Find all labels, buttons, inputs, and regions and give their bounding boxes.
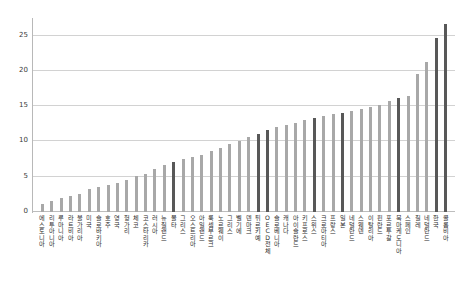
bar <box>332 114 335 212</box>
bar-series <box>33 18 455 212</box>
bar <box>322 116 325 212</box>
bar <box>407 96 410 212</box>
x-axis-label: 일본 <box>339 215 346 228</box>
y-tick-label-0: 0 <box>24 208 28 215</box>
x-axis-label: 영국 <box>114 215 121 228</box>
x-axis-label: 키프로스 <box>301 215 308 241</box>
bar <box>172 162 175 212</box>
x-axis-label: 불가리아 <box>76 215 83 241</box>
x-axis-label: 호주 <box>105 215 112 228</box>
bar <box>425 62 428 212</box>
x-axis-label: 루마니아 <box>58 215 65 241</box>
bar <box>153 169 156 212</box>
bar <box>313 118 316 212</box>
bar <box>416 74 419 212</box>
x-axis-label: 체코 <box>133 215 140 228</box>
bar <box>294 123 297 212</box>
x-axis-label: 룩셈부르크 <box>208 215 215 248</box>
x-axis-label: 프랑스 <box>330 215 337 235</box>
x-axis-label: 튀르키예 <box>255 215 262 241</box>
x-axis-label: 덴마크 <box>245 215 252 235</box>
bar <box>41 204 44 212</box>
bar <box>378 105 381 212</box>
bar <box>88 189 91 212</box>
x-axis-label: 크로아티아 <box>320 215 327 248</box>
x-axis-label: 그리스 <box>226 215 233 235</box>
y-axis-tick-labels: 0510152025 <box>0 0 33 296</box>
x-axis-label: 이탈리아 <box>367 215 374 241</box>
x-axis-label: 아일랜드 <box>198 215 205 241</box>
x-axis-label: 헝가리 <box>123 215 130 235</box>
x-axis-label: 몰타 <box>170 215 177 228</box>
x-axis-label: 칠레 <box>414 215 421 228</box>
bar <box>266 130 269 212</box>
x-axis-label: 네덜란드 <box>423 215 430 241</box>
bar <box>78 194 81 212</box>
bar <box>210 151 213 212</box>
y-tick-label-5: 5 <box>24 173 28 180</box>
x-axis-label: 북마케도니아 <box>395 215 402 255</box>
bar <box>285 125 288 212</box>
bar <box>275 127 278 212</box>
y-tick-label-10: 10 <box>19 137 28 144</box>
x-axis-label: OECD 전체 <box>264 215 271 255</box>
bar <box>144 174 147 212</box>
x-axis-label: 그리스 <box>180 215 187 235</box>
x-axis-label: 한국 <box>433 215 440 228</box>
bar <box>135 176 138 212</box>
x-axis-label: 스페인 <box>405 215 412 235</box>
bar <box>50 201 53 212</box>
bar <box>191 157 194 212</box>
bar <box>369 107 372 212</box>
x-axis-label: 아이슬란드 <box>292 215 299 248</box>
x-axis-label: 포르투갈 <box>386 215 393 241</box>
bar <box>107 185 110 213</box>
x-axis-label: 코스타리카 <box>142 215 149 248</box>
bar-chart: 0510152025 에스토니아리투아니아루마니아라트비아불가리아미국슬로바키아… <box>0 0 463 296</box>
bar <box>341 113 344 212</box>
bar <box>200 155 203 212</box>
bar <box>360 109 363 212</box>
bar <box>182 159 185 212</box>
x-axis-label: 에스토니아 <box>39 215 46 248</box>
x-axis-label: 캐나다 <box>283 215 290 235</box>
x-axis-label: 미국 <box>86 215 93 228</box>
y-tick-label-20: 20 <box>19 67 28 74</box>
x-axis-label: 뉴질랜드 <box>161 215 168 241</box>
bar <box>397 98 400 212</box>
bar <box>163 165 166 212</box>
bar <box>350 111 353 212</box>
bar <box>60 198 63 212</box>
bar <box>388 101 391 212</box>
x-axis-label: 슬로바키아 <box>95 215 102 248</box>
x-axis-label: 핀란드 <box>376 215 383 235</box>
bar <box>444 24 447 212</box>
x-axis-label: 네덜란드 <box>348 215 355 241</box>
bar <box>97 187 100 212</box>
bar <box>247 137 250 212</box>
y-tick-label-15: 15 <box>19 102 28 109</box>
bar <box>219 148 222 212</box>
bar <box>257 134 260 212</box>
bar <box>238 141 241 212</box>
x-axis-label: 노르웨이 <box>217 215 224 241</box>
x-axis-label: 리투아니아 <box>48 215 55 248</box>
bar <box>228 144 231 212</box>
x-axis-label: 슬로베니아 <box>273 215 280 248</box>
x-axis-label: 벨기에 <box>236 215 243 235</box>
bar <box>303 120 306 212</box>
x-axis-category-labels: 에스토니아리투아니아루마니아라트비아불가리아미국슬로바키아호주영국헝가리체코코스… <box>33 215 455 295</box>
x-axis-label: 라트비아 <box>67 215 74 241</box>
x-axis-label: 스웨덴 <box>358 215 365 235</box>
bar <box>69 196 72 212</box>
bar <box>435 38 438 212</box>
x-axis-label: 스위스 <box>311 215 318 235</box>
bar <box>125 180 128 212</box>
bar <box>116 183 119 212</box>
x-axis-label: 러시아 <box>151 215 158 235</box>
x-axis-label: 콜롬비아 <box>442 215 449 241</box>
x-axis-label: 오스트리아 <box>189 215 196 248</box>
y-tick-label-25: 25 <box>19 32 28 39</box>
